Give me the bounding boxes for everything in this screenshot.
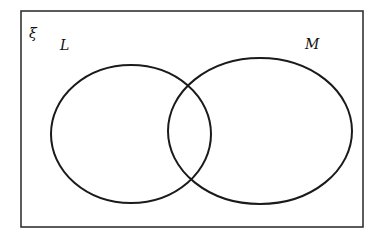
- set-l-label: L: [59, 37, 69, 53]
- universal-set-label: ξ: [29, 25, 38, 41]
- set-m-label: M: [304, 36, 320, 52]
- set-m-circle: [168, 58, 352, 204]
- venn-diagram: ξ L M: [0, 0, 378, 238]
